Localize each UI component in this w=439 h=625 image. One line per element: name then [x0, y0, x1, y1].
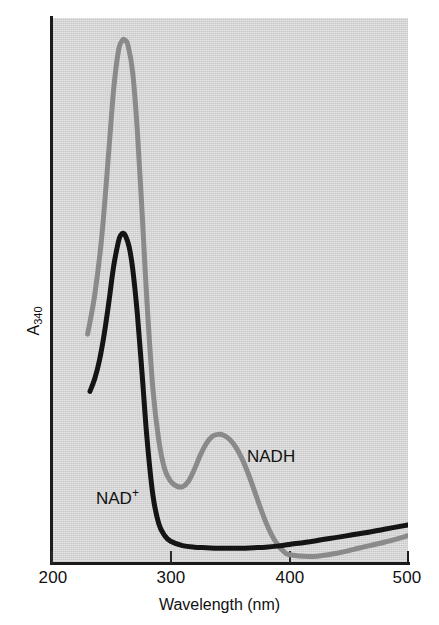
x-tick-label-2: 400: [276, 568, 305, 588]
x-tick-label-3: 500: [393, 568, 422, 588]
y-axis-title-base: A: [25, 325, 42, 336]
x-axis-title: Wavelength (nm): [0, 596, 439, 614]
x-tick-label-0: 200: [39, 568, 68, 588]
spectra-figure: 200 300 400 500 Wavelength (nm) A340 NAD…: [0, 0, 439, 625]
curve-label-nad-plus: NAD+: [96, 489, 139, 509]
curve-label-nad-plus-text: NAD: [96, 489, 132, 508]
curve-label-nadh: NADH: [247, 447, 295, 467]
y-axis-title-subscript: 340: [32, 306, 44, 324]
curve-label-nad-plus-superscript: +: [132, 486, 139, 500]
x-tick-label-1: 300: [157, 568, 186, 588]
curves-svg: [52, 18, 408, 563]
y-axis-title: A340: [25, 281, 43, 361]
